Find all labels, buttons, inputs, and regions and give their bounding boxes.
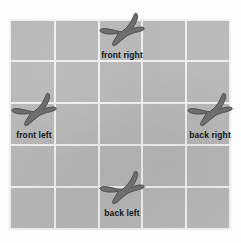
footprint-grid-scene: front right front left back right back l… xyxy=(0,0,241,243)
gridline-horizontal-3 xyxy=(9,144,231,146)
gridline-vertical-2 xyxy=(98,19,100,230)
gridline-horizontal-2 xyxy=(9,102,231,104)
gridline-horizontal-5 xyxy=(9,228,231,230)
gridline-horizontal-1 xyxy=(9,60,231,62)
gridline-horizontal-0 xyxy=(9,19,231,21)
gridline-horizontal-4 xyxy=(9,186,231,188)
gridline-vertical-1 xyxy=(54,19,56,230)
gridline-vertical-4 xyxy=(185,19,187,230)
gridline-vertical-0 xyxy=(9,19,11,230)
gridline-vertical-3 xyxy=(141,19,143,230)
grid-board xyxy=(9,19,231,230)
gridline-vertical-5 xyxy=(229,19,231,230)
